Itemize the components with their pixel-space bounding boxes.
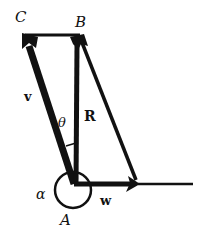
vector-r [76, 46, 77, 184]
label-theta: θ [58, 115, 66, 130]
label-v: v [23, 89, 32, 104]
label-alpha: α [36, 186, 46, 202]
label-c: C [15, 8, 27, 26]
vector-v [29, 46, 74, 184]
label-r: R [84, 108, 96, 124]
label-b: B [74, 13, 86, 31]
vector-diagram: C B v θ R α w A [0, 0, 206, 231]
label-w: w [99, 193, 112, 208]
label-a: A [58, 211, 71, 229]
